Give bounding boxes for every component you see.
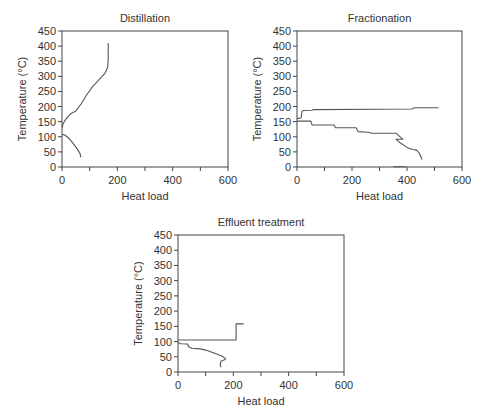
y-tick-label: 200 xyxy=(273,101,291,113)
chart-effluent-treatment: Effluent treatment0501001502002503003504… xyxy=(132,216,353,407)
y-tick-label: 250 xyxy=(154,290,172,302)
x-tick-label: 0 xyxy=(294,174,300,186)
y-tick-label: 100 xyxy=(154,336,172,348)
y-tick-label: 50 xyxy=(160,351,172,363)
y-tick-label: 300 xyxy=(38,70,56,82)
y-tick-label: 0 xyxy=(285,161,291,173)
y-tick-label: 0 xyxy=(50,161,56,173)
y-tick-label: 250 xyxy=(38,85,56,97)
series-line xyxy=(297,121,422,159)
x-tick-label: 200 xyxy=(224,379,242,391)
y-tick-label: 450 xyxy=(154,229,172,241)
plot-frame xyxy=(62,31,228,167)
y-axis-label: Temperature (°C) xyxy=(132,261,144,345)
series-line xyxy=(178,343,226,368)
y-tick-label: 400 xyxy=(38,40,56,52)
y-tick-label: 250 xyxy=(273,85,291,97)
x-axis-label: Heat load xyxy=(237,395,284,407)
chart-title: Effluent treatment xyxy=(218,216,305,228)
x-tick-label: 200 xyxy=(343,174,361,186)
y-axis-label: Temperature (°C) xyxy=(16,57,28,141)
chart-title: Distillation xyxy=(120,12,170,24)
x-tick-label: 200 xyxy=(108,174,126,186)
plot-frame xyxy=(297,31,462,167)
y-tick-label: 300 xyxy=(273,70,291,82)
x-tick-label: 0 xyxy=(59,174,65,186)
x-tick-label: 600 xyxy=(453,174,471,186)
x-tick-label: 400 xyxy=(163,174,181,186)
series-line xyxy=(62,43,108,128)
chart-distillation: Distillation0501001502002503003504004500… xyxy=(16,12,237,202)
series-line xyxy=(178,324,244,340)
y-tick-label: 50 xyxy=(44,146,56,158)
y-tick-label: 150 xyxy=(154,320,172,332)
y-tick-label: 350 xyxy=(154,259,172,271)
x-tick-label: 600 xyxy=(335,379,353,391)
figure: Distillation0501001502002503003504004500… xyxy=(0,0,478,420)
y-tick-label: 150 xyxy=(38,116,56,128)
y-tick-label: 0 xyxy=(166,366,172,378)
y-tick-label: 400 xyxy=(154,244,172,256)
y-tick-label: 150 xyxy=(273,116,291,128)
x-axis-label: Heat load xyxy=(121,190,168,202)
y-tick-label: 450 xyxy=(38,25,56,37)
x-tick-label: 0 xyxy=(175,379,181,391)
x-tick-label: 400 xyxy=(398,174,416,186)
y-tick-label: 50 xyxy=(279,146,291,158)
y-tick-label: 100 xyxy=(273,131,291,143)
y-axis-label: Temperature (°C) xyxy=(251,57,263,141)
y-tick-label: 300 xyxy=(154,275,172,287)
y-tick-label: 350 xyxy=(273,55,291,67)
x-tick-label: 600 xyxy=(219,174,237,186)
x-tick-label: 400 xyxy=(279,379,297,391)
chart-title: Fractionation xyxy=(348,12,412,24)
plot-frame xyxy=(178,235,344,372)
y-tick-label: 350 xyxy=(38,55,56,67)
y-tick-label: 400 xyxy=(273,40,291,52)
y-tick-label: 200 xyxy=(154,305,172,317)
x-axis-label: Heat load xyxy=(356,190,403,202)
chart-fractionation: Fractionation050100150200250300350400450… xyxy=(251,12,471,202)
series-line xyxy=(62,134,81,157)
y-tick-label: 200 xyxy=(38,101,56,113)
y-tick-label: 100 xyxy=(38,131,56,143)
series-line xyxy=(297,108,439,119)
y-tick-label: 450 xyxy=(273,25,291,37)
